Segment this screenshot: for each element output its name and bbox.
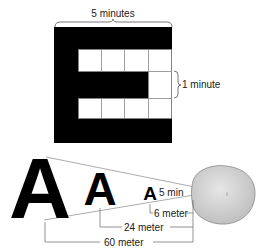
e-lower-gap <box>79 99 172 119</box>
angle-label: 5 min <box>159 187 183 198</box>
eye-icon <box>192 166 256 224</box>
distance-label-24m: 24 meter <box>124 222 164 233</box>
letter-a-large: A <box>9 140 71 236</box>
e-middle-gap <box>149 72 172 99</box>
letter-a-small: A <box>143 183 157 204</box>
cell-brace <box>174 71 181 98</box>
width-label: 5 minutes <box>91 8 134 19</box>
distance-label-6m: 6 meter <box>154 208 189 219</box>
letter-a-medium: A <box>83 163 116 215</box>
distance-figure: A A A 5 min 6 meter 24 meter 60 meter <box>9 140 255 248</box>
width-brace <box>55 19 172 27</box>
distance-label-60m: 60 meter <box>104 237 144 248</box>
e-upper-gap <box>79 50 172 72</box>
snellen-e-figure: 5 minutes 1 minute <box>54 8 221 143</box>
visual-acuity-diagram: 5 minutes 1 minute A A <box>0 0 257 252</box>
cell-label: 1 minute <box>182 79 221 90</box>
